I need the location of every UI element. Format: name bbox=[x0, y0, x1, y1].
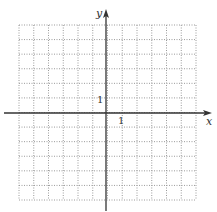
x-tick-label: 1 bbox=[118, 115, 124, 126]
y-tick-label: 1 bbox=[97, 94, 103, 105]
coordinate-plane: y x 1 1 bbox=[0, 0, 217, 212]
x-axis-label: x bbox=[206, 115, 213, 128]
y-axis-label: y bbox=[95, 7, 103, 20]
